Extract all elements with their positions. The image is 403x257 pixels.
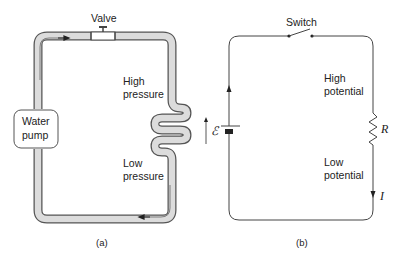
low-potential-label-line2: potential	[324, 169, 364, 181]
caption-b: (b)	[296, 237, 308, 248]
flow-streamline-bottom	[140, 185, 170, 217]
current-arrow-up-icon	[227, 85, 232, 92]
high-pressure-label-line1: High	[123, 75, 145, 87]
low-pressure-label-line2: pressure	[123, 170, 164, 182]
high-potential-label-line2: potential	[324, 85, 364, 97]
current-arrow-down-icon	[371, 191, 376, 198]
electric-circuit: Switch High potential Low potential ℰ R …	[204, 16, 389, 248]
high-pressure-label-line2: pressure	[123, 88, 164, 100]
valve-icon	[91, 26, 115, 40]
flow-streamline-top	[40, 38, 68, 80]
pump-label-line2: pump	[22, 129, 48, 141]
valve-label: Valve	[91, 12, 117, 24]
emf-arrow-icon	[204, 117, 208, 144]
diagram-svg: Valve Water pump High pressure Low press…	[0, 0, 403, 257]
diagram-canvas: Valve Water pump High pressure Low press…	[0, 0, 403, 257]
water-circuit: Valve Water pump High pressure Low press…	[14, 12, 187, 248]
switch-label: Switch	[286, 16, 317, 28]
current-symbol: I	[379, 189, 385, 203]
caption-a: (a)	[96, 237, 108, 248]
switch-icon	[287, 29, 313, 38]
water-pipe-fill	[38, 36, 187, 219]
low-pressure-label-line1: Low	[123, 157, 143, 169]
resistor-icon	[369, 113, 377, 145]
battery-icon	[221, 126, 240, 134]
resistor-symbol: R	[380, 122, 389, 136]
emf-symbol: ℰ	[211, 124, 220, 138]
pump-label-line1: Water	[22, 115, 50, 127]
wire-left-top	[229, 36, 289, 126]
low-potential-label-line1: Low	[324, 156, 344, 168]
high-potential-label-line1: High	[324, 72, 346, 84]
